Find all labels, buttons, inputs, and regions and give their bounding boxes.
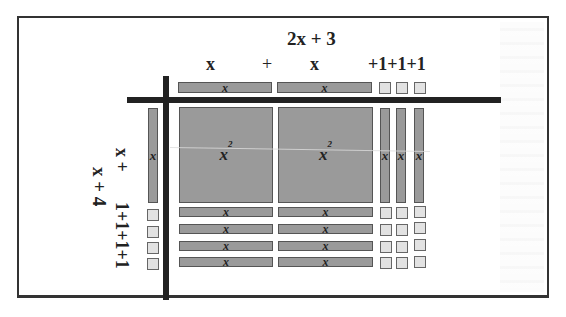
tile-label: x <box>223 240 229 252</box>
left-term-x-plus: x + <box>111 148 132 172</box>
tile-label: x <box>323 256 329 268</box>
left-term-units: 1+1+1+1 <box>111 202 132 269</box>
product-x-tile[interactable]: x <box>396 108 406 203</box>
top-unit-tile[interactable] <box>396 82 408 94</box>
top-term-x-1: x <box>206 54 215 75</box>
left-unit-tile[interactable] <box>147 242 159 254</box>
product-x-tile[interactable]: x <box>278 207 373 217</box>
product-unit-tile[interactable] <box>414 206 426 218</box>
left-unit-tile[interactable] <box>147 226 159 238</box>
product-x-tile[interactable]: x <box>179 241 273 251</box>
x-squared-tile[interactable]: x2 <box>179 107 273 203</box>
tile-label: x <box>323 223 329 235</box>
product-x-tile[interactable]: x <box>278 257 373 267</box>
product-unit-tile[interactable] <box>380 224 392 236</box>
product-unit-tile[interactable] <box>380 257 392 269</box>
scan-bleed-through <box>500 22 544 292</box>
tile-label: x <box>323 240 329 252</box>
top-unit-tile[interactable] <box>414 82 426 94</box>
tile-label: x <box>223 223 229 235</box>
tile-label: x <box>322 82 328 94</box>
top-factor-expression: 2x + 3 <box>287 28 336 50</box>
left-factor-expression: x + 4 <box>88 167 110 206</box>
left-unit-tile[interactable] <box>147 209 159 221</box>
product-unit-tile[interactable] <box>396 257 408 269</box>
tile-label: x2 <box>319 145 332 165</box>
product-unit-tile[interactable] <box>414 239 426 251</box>
product-unit-tile[interactable] <box>396 241 408 253</box>
top-unit-tile[interactable] <box>379 82 391 94</box>
product-x-tile[interactable]: x <box>278 241 373 251</box>
product-x-tile[interactable]: x <box>414 108 424 203</box>
tile-label: x <box>323 206 329 218</box>
product-x-tile[interactable]: x <box>380 108 390 203</box>
product-unit-tile[interactable] <box>396 224 408 236</box>
product-x-tile[interactable]: x <box>179 257 273 267</box>
tile-label: x <box>223 206 229 218</box>
product-unit-tile[interactable] <box>414 256 426 268</box>
product-x-tile[interactable]: x <box>179 207 273 217</box>
left-x-tile[interactable]: x <box>148 108 158 203</box>
product-unit-tile[interactable] <box>380 241 392 253</box>
top-term-x-2: x <box>310 54 319 75</box>
tile-label: x <box>150 148 157 164</box>
top-x-tile[interactable]: x <box>277 82 372 93</box>
top-term-plus: + <box>262 54 272 75</box>
vertical-axis-line <box>163 76 169 300</box>
product-x-tile[interactable]: x <box>179 224 273 234</box>
x-squared-tile[interactable]: x2 <box>278 107 373 203</box>
product-unit-tile[interactable] <box>396 207 408 219</box>
top-term-units: +1+1+1 <box>368 54 426 75</box>
left-unit-tile[interactable] <box>147 258 159 270</box>
horizontal-axis-line <box>127 97 501 103</box>
product-unit-tile[interactable] <box>380 207 392 219</box>
tile-label: x <box>223 256 229 268</box>
tile-label: x <box>222 82 228 94</box>
product-unit-tile[interactable] <box>414 222 426 234</box>
product-x-tile[interactable]: x <box>278 224 373 234</box>
top-x-tile[interactable]: x <box>178 82 272 93</box>
